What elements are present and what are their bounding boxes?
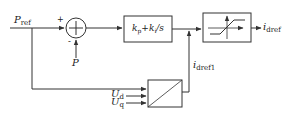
pref-branch-line <box>32 28 146 89</box>
minus-sign: - <box>68 38 71 46</box>
idref1-label: idref1 <box>193 60 215 72</box>
diagonal-divider-icon <box>148 80 182 107</box>
pref-label: Pref <box>14 15 31 27</box>
idref1-line <box>182 31 189 92</box>
p-feedback-label: P <box>72 58 79 68</box>
plus-sign: + <box>57 16 64 24</box>
idref-label: idref <box>263 22 281 34</box>
pi-transfer-function: kp+ki/s <box>124 24 172 34</box>
control-diagram <box>0 0 293 122</box>
uq-label: Uq <box>111 97 124 109</box>
saturation-icon <box>208 16 245 39</box>
